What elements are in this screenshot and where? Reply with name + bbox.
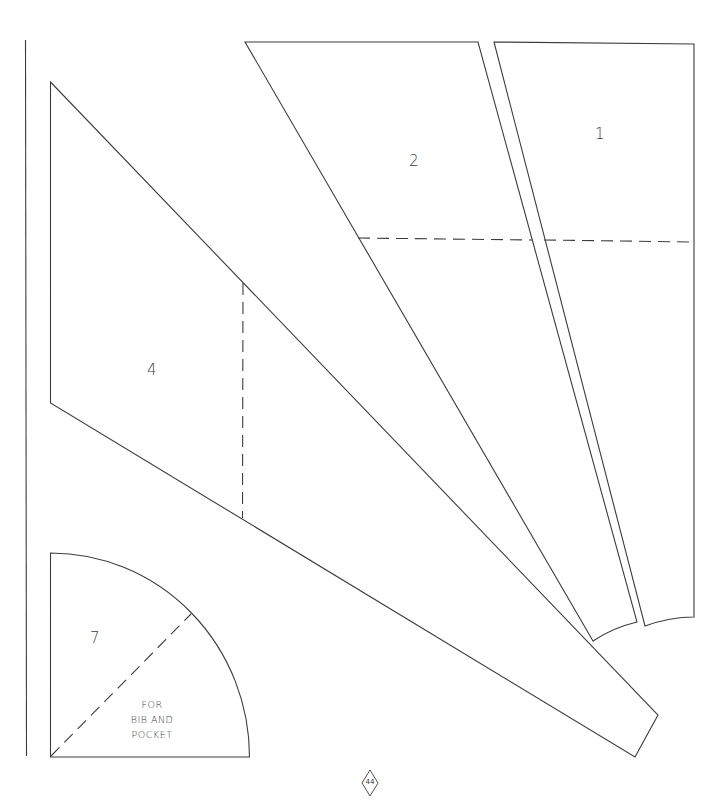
pattern-piece-1-outline bbox=[494, 42, 694, 626]
pattern-piece-4-fold-line bbox=[243, 283, 244, 518]
pattern-piece-2-outline bbox=[245, 42, 637, 641]
pattern-piece-4-label: 4 bbox=[147, 361, 157, 379]
pattern-piece-2-label: 2 bbox=[409, 152, 419, 170]
pattern-canvas bbox=[0, 0, 707, 811]
note-line-3: POCKET bbox=[122, 727, 182, 742]
pattern-piece-2-fold-line bbox=[358, 238, 533, 240]
pattern-piece-1-label: 1 bbox=[595, 125, 605, 143]
page-number: 44 bbox=[360, 778, 380, 786]
pattern-piece-1-fold-line bbox=[544, 240, 694, 242]
pattern-piece-7-note: FOR BIB AND POCKET bbox=[122, 697, 182, 742]
pattern-piece-4-outline bbox=[51, 82, 659, 757]
margin-line bbox=[26, 40, 27, 756]
note-line-2: BIB AND bbox=[122, 712, 182, 727]
pattern-piece-7-label: 7 bbox=[90, 629, 100, 647]
note-line-1: FOR bbox=[122, 697, 182, 712]
